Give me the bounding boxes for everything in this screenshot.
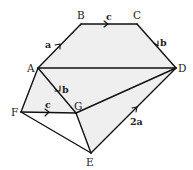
vector-label-CD: b	[160, 37, 167, 48]
vertex-label-G: G	[74, 100, 82, 112]
vector-label-ED: 2a	[130, 116, 143, 127]
vertex-label-B: B	[77, 9, 85, 21]
vector-label-FG: c	[45, 99, 51, 110]
vector-diagram: A B C D E F G a c b b c 2a	[0, 0, 193, 170]
vertex-label-D: D	[178, 62, 186, 74]
vertex-label-E: E	[86, 156, 94, 168]
vector-label-AG: b	[62, 84, 69, 95]
vector-label-AB: a	[45, 39, 51, 50]
shaded-region-afgd	[21, 68, 176, 153]
vertex-label-C: C	[133, 9, 141, 21]
vertex-label-A: A	[26, 62, 35, 74]
vertex-label-F: F	[11, 106, 18, 118]
vector-label-BC: c	[106, 11, 112, 22]
